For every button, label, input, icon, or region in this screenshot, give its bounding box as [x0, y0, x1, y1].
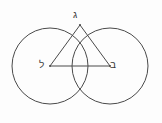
vertex-label-left-center: ל	[39, 60, 44, 70]
geometry-canvas	[0, 0, 162, 123]
vertex-label-apex: ג	[73, 10, 77, 20]
upper-intersection-point	[79, 24, 81, 26]
left-center-point	[49, 65, 51, 67]
vertex-label-right-center: ב	[110, 60, 116, 70]
geometry-figure: ג ל ב	[0, 0, 162, 123]
